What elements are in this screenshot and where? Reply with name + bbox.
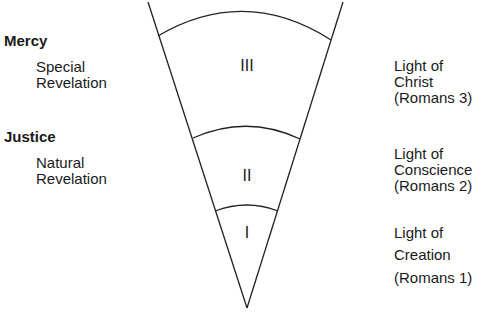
light-christ-line3: (Romans 3)	[394, 89, 472, 106]
section-numeral-3: III	[240, 57, 253, 75]
light-conscience-line2: Conscience	[394, 161, 472, 178]
arc-middle	[193, 126, 300, 139]
cone-right-edge	[247, 2, 343, 308]
natural-revelation-line2: Revelation	[36, 170, 107, 187]
natural-revelation-line1: Natural	[36, 154, 84, 171]
light-christ-line2: Christ	[394, 73, 433, 90]
mercy-heading: Mercy	[4, 32, 47, 49]
special-revelation-line1: Special	[36, 58, 85, 75]
cone-left-edge	[148, 2, 247, 308]
arc-outer	[158, 11, 331, 40]
light-conscience-line3: (Romans 2)	[394, 177, 472, 194]
light-creation-line1: Light of	[394, 224, 443, 241]
light-creation-line3: (Romans 1)	[394, 269, 472, 286]
special-revelation-line2: Revelation	[36, 74, 107, 91]
justice-heading: Justice	[4, 128, 56, 145]
light-creation-line2: Creation	[394, 246, 451, 263]
arc-inner	[215, 205, 278, 211]
section-numeral-2: II	[243, 167, 252, 185]
section-numeral-1: I	[245, 224, 249, 242]
light-christ-line1: Light of	[394, 57, 443, 74]
light-conscience-line1: Light of	[394, 145, 443, 162]
